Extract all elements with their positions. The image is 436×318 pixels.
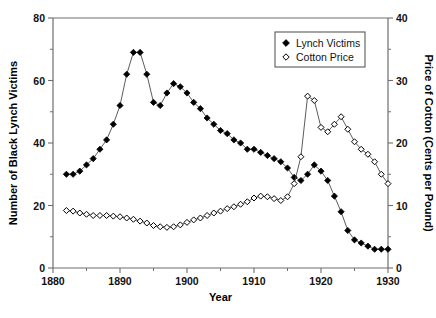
open-diamond-marker: [104, 213, 110, 219]
open-diamond-marker: [211, 210, 217, 216]
y-tick-label-left: 40: [33, 137, 45, 149]
filled-diamond-marker: [124, 71, 130, 77]
open-diamond-marker: [224, 206, 230, 212]
chart-canvas: 1880189019001910192019300204060800102030…: [0, 0, 436, 318]
y-tick-label-right: 40: [396, 12, 408, 24]
open-diamond-marker: [258, 193, 264, 199]
filled-diamond-marker: [164, 90, 170, 96]
y-tick-label-left: 0: [39, 262, 45, 274]
open-diamond-marker: [318, 124, 324, 130]
y-axis-title-right: Price of Cotton (Cents per Pound): [423, 54, 435, 232]
open-diamond-marker: [184, 219, 190, 225]
open-diamond-marker: [70, 208, 76, 214]
filled-diamond-marker: [264, 152, 270, 158]
open-diamond-marker: [177, 222, 183, 228]
filled-diamond-marker: [70, 171, 76, 177]
open-diamond-marker: [238, 201, 244, 207]
x-tick-label: 1930: [376, 275, 400, 287]
filled-diamond-marker: [110, 121, 116, 127]
y-tick-label-left: 60: [33, 75, 45, 87]
filled-diamond-marker: [331, 193, 337, 199]
chart-figure: 1880189019001910192019300204060800102030…: [0, 0, 436, 318]
open-diamond-marker: [84, 211, 90, 217]
open-diamond-marker: [264, 194, 270, 200]
filled-diamond-marker: [372, 246, 378, 252]
series-group: [63, 49, 391, 252]
open-diamond-marker: [124, 215, 130, 221]
open-diamond-marker: [110, 213, 116, 219]
open-diamond-marker: [144, 220, 150, 226]
open-diamond-marker: [271, 196, 277, 202]
y-tick-label-right: 0: [396, 262, 402, 274]
x-tick-label: 1900: [175, 275, 199, 287]
x-tick-label: 1890: [108, 275, 132, 287]
filled-diamond-marker: [251, 146, 257, 152]
open-diamond-marker: [197, 215, 203, 221]
open-diamond-marker: [278, 198, 284, 204]
open-diamond-marker: [385, 181, 391, 187]
filled-diamond-marker: [378, 246, 384, 252]
filled-diamond-marker: [271, 156, 277, 162]
filled-diamond-marker: [157, 102, 163, 108]
filled-diamond-marker: [171, 81, 177, 87]
filled-diamond-marker: [345, 227, 351, 233]
open-diamond-marker: [137, 218, 143, 224]
open-diamond-marker: [77, 210, 83, 216]
open-diamond-marker: [204, 213, 210, 219]
y-tick-label-left: 80: [33, 12, 45, 24]
y-tick-label-right: 30: [396, 75, 408, 87]
filled-diamond-marker: [117, 102, 123, 108]
open-diamond-marker: [378, 171, 384, 177]
legend-label-lynch-victims[interactable]: Lynch Victims: [296, 37, 360, 49]
open-diamond-marker: [311, 98, 317, 104]
x-tick-label: 1910: [242, 275, 266, 287]
legend-label-cotton-price[interactable]: Cotton Price: [296, 51, 354, 63]
filled-diamond-marker: [137, 49, 143, 55]
y-tick-label-right: 10: [396, 200, 408, 212]
open-diamond-marker: [90, 213, 96, 219]
open-diamond-marker: [218, 208, 224, 214]
filled-diamond-marker: [258, 149, 264, 155]
filled-diamond-marker: [130, 49, 136, 55]
filled-diamond-marker: [325, 177, 331, 183]
open-diamond-marker: [164, 224, 170, 230]
open-diamond-marker: [285, 194, 291, 200]
y-axis-title-left: Number of Black Lynch Victims: [7, 61, 19, 225]
open-diamond-marker: [63, 208, 69, 214]
series-line-lynch-victims: [66, 52, 388, 249]
x-tick-label: 1880: [41, 275, 65, 287]
open-diamond-marker: [191, 217, 197, 223]
open-diamond-marker: [157, 224, 163, 230]
open-diamond-marker: [231, 204, 237, 210]
filled-diamond-marker: [104, 137, 110, 143]
open-diamond-marker: [244, 199, 250, 205]
open-diamond-marker: [291, 181, 297, 187]
open-diamond-marker: [130, 216, 136, 222]
y-tick-label-left: 20: [33, 200, 45, 212]
chart-legend[interactable]: Lynch VictimsCotton Price: [275, 32, 365, 67]
open-diamond-marker: [298, 154, 304, 160]
filled-diamond-marker: [351, 237, 357, 243]
filled-diamond-marker: [365, 243, 371, 249]
open-diamond-marker: [345, 126, 351, 132]
open-diamond-marker: [151, 223, 157, 229]
x-axis-title: Year: [209, 291, 233, 303]
filled-diamond-marker: [63, 171, 69, 177]
filled-diamond-marker: [150, 99, 156, 105]
open-diamond-marker: [97, 213, 103, 219]
filled-diamond-marker: [358, 240, 364, 246]
filled-diamond-marker: [385, 246, 391, 252]
open-diamond-marker: [117, 214, 123, 220]
x-tick-label: 1920: [309, 275, 333, 287]
open-diamond-marker: [251, 195, 257, 201]
open-diamond-marker: [171, 224, 177, 230]
y-tick-label-right: 20: [396, 137, 408, 149]
filled-diamond-marker: [338, 209, 344, 215]
filled-diamond-marker: [144, 71, 150, 77]
open-diamond-marker: [305, 93, 311, 99]
filled-diamond-marker: [97, 146, 103, 152]
